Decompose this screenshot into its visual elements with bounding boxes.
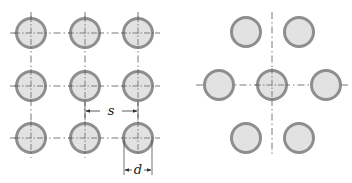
pitch-label: s	[108, 103, 115, 118]
tube	[68, 121, 102, 155]
tube	[205, 71, 234, 100]
tube	[14, 16, 48, 50]
tube	[121, 121, 155, 155]
tube	[121, 69, 155, 103]
staggered-arrangement	[196, 12, 350, 157]
tube	[14, 69, 48, 103]
pitch-dimension: s	[85, 102, 138, 118]
tube	[14, 121, 48, 155]
tube	[285, 18, 314, 47]
tube	[285, 124, 314, 153]
tubes	[14, 16, 155, 155]
tube	[121, 16, 155, 50]
tube	[68, 69, 102, 103]
inline-arrangement: s d	[10, 12, 160, 177]
tube-bank-diagram: s d	[0, 0, 352, 183]
tubes	[205, 18, 341, 153]
tube	[312, 71, 341, 100]
tube	[232, 124, 261, 153]
diameter-label: d	[134, 162, 142, 177]
tube	[232, 18, 261, 47]
tube	[68, 16, 102, 50]
